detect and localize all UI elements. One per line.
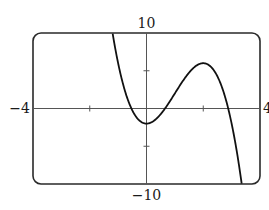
ymin-label: −10 [132, 187, 162, 203]
ymax-label: 10 [138, 15, 156, 31]
graph-canvas: 10 −10 −4 4 [0, 0, 269, 210]
xmin-label: −4 [9, 100, 30, 116]
xmax-label: 4 [263, 100, 269, 116]
